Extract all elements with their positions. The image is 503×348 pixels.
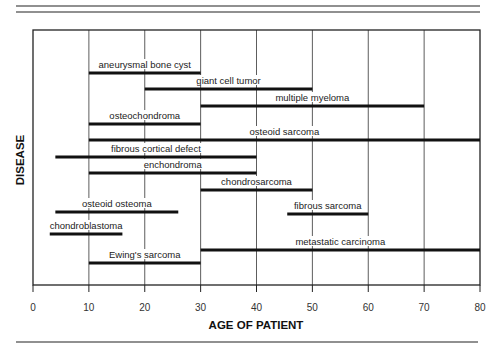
- range-bar-label: fibrous cortical defect: [111, 143, 201, 154]
- range-bar-label: multiple myeloma: [275, 92, 350, 103]
- x-axis-ticks: 01020304050607080: [30, 285, 486, 313]
- range-bar-label: fibrous sarcoma: [294, 200, 362, 211]
- x-tick-label: 60: [363, 302, 375, 313]
- range-bar-label: osteoid sarcoma: [250, 126, 320, 137]
- range-bar-label: osteoid osteoma: [82, 198, 152, 209]
- range-bar-label: Ewing's sarcoma: [109, 249, 181, 260]
- y-axis-title: DISEASE: [14, 134, 26, 185]
- x-tick-label: 30: [195, 302, 207, 313]
- range-bar-label: enchondroma: [144, 159, 203, 170]
- range-bar-label: giant cell tumor: [196, 75, 260, 86]
- x-tick-label: 20: [139, 302, 151, 313]
- x-tick-label: 50: [307, 302, 319, 313]
- range-bar-label: aneurysmal bone cyst: [99, 59, 192, 70]
- x-tick-label: 40: [251, 302, 263, 313]
- x-tick-label: 0: [30, 302, 36, 313]
- x-tick-label: 80: [474, 302, 486, 313]
- range-bar-label: chondrosarcoma: [221, 176, 292, 187]
- x-axis-title: AGE OF PATIENT: [209, 319, 304, 331]
- range-bar-label: chondroblastoma: [50, 220, 124, 231]
- disease-age-chart: aneurysmal bone cystgiant cell tumormult…: [0, 0, 503, 348]
- range-bar-label: metastatic carcinoma: [295, 236, 385, 247]
- x-tick-label: 10: [83, 302, 95, 313]
- x-tick-label: 70: [419, 302, 431, 313]
- range-bar-label: osteochondroma: [109, 110, 180, 121]
- range-bars: aneurysmal bone cystgiant cell tumormult…: [49, 59, 480, 263]
